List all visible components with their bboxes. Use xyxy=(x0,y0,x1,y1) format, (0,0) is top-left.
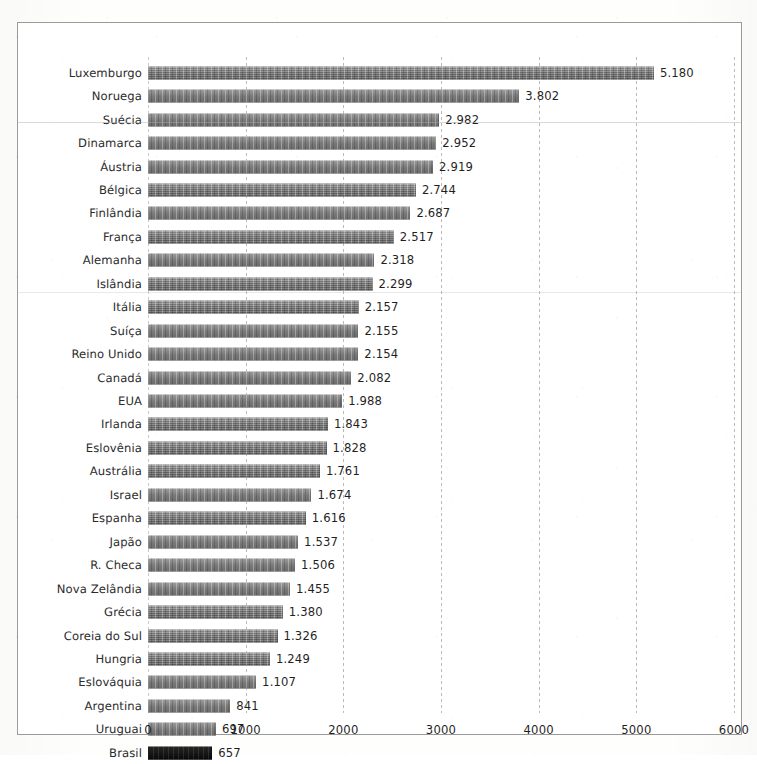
bar-value-label: 1.616 xyxy=(312,511,346,525)
category-label: Argentina xyxy=(85,699,142,713)
bar xyxy=(148,488,311,501)
plot-area: Luxemburgo5.180Noruega3.802Suécia2.982Di… xyxy=(148,57,734,713)
bar xyxy=(148,348,358,361)
bar-row: França2.517 xyxy=(148,225,734,248)
bar-row: Argentina841 xyxy=(148,694,734,717)
bar xyxy=(148,90,519,103)
bar xyxy=(148,160,433,173)
bar-row: Luxemburgo5.180 xyxy=(148,61,734,84)
bar xyxy=(148,699,230,712)
bar-value-label: 1.455 xyxy=(296,582,330,596)
category-label: Japão xyxy=(109,535,142,549)
bar-row: Reino Unido2.154 xyxy=(148,342,734,365)
bar-value-label: 2.082 xyxy=(357,371,391,385)
bar xyxy=(148,676,256,689)
bar-value-label: 2.155 xyxy=(364,324,398,338)
bar-value-label: 3.802 xyxy=(525,89,559,103)
bar xyxy=(148,207,410,220)
bar xyxy=(148,254,374,267)
bar-row: Suíça2.155 xyxy=(148,319,734,342)
gridline-6000 xyxy=(734,57,735,713)
category-label: Luxemburgo xyxy=(69,66,142,80)
bar-row: Suécia2.982 xyxy=(148,108,734,131)
category-label: R. Checa xyxy=(90,558,142,572)
bar-row: Noruega3.802 xyxy=(148,84,734,107)
bar xyxy=(148,371,351,384)
category-label: Dinamarca xyxy=(78,136,142,150)
chart-frame: Luxemburgo5.180Noruega3.802Suécia2.982Di… xyxy=(17,22,742,735)
x-tick-label: 2000 xyxy=(328,723,358,737)
bar-row: R. Checa1.506 xyxy=(148,553,734,576)
category-label: Espanha xyxy=(92,511,142,525)
bar-value-label: 1.380 xyxy=(289,605,323,619)
bar-value-label: 2.157 xyxy=(365,300,399,314)
bar-row: Israel1.674 xyxy=(148,483,734,506)
bar-value-label: 2.919 xyxy=(439,160,473,174)
category-label: Suíça xyxy=(110,324,142,338)
bar-value-label: 2.299 xyxy=(379,277,413,291)
bar-value-label: 2.154 xyxy=(364,347,398,361)
bar xyxy=(148,535,298,548)
bar xyxy=(148,66,654,79)
category-label: Coreia do Sul xyxy=(64,629,142,643)
category-label: Alemanha xyxy=(83,253,142,267)
bar xyxy=(148,183,416,196)
bar-row: Nova Zelândia1.455 xyxy=(148,577,734,600)
bar xyxy=(148,606,283,619)
bar-value-label: 1.506 xyxy=(301,558,335,572)
bar-value-label: 1.326 xyxy=(284,629,318,643)
category-label: Grécia xyxy=(104,605,142,619)
category-label: Suécia xyxy=(103,113,142,127)
x-tick-label: 1000 xyxy=(231,723,261,737)
bar-value-label: 841 xyxy=(236,699,259,713)
bar xyxy=(148,652,270,665)
x-tick-label: 4000 xyxy=(524,723,554,737)
category-label: Eslováquia xyxy=(78,675,142,689)
x-tick-label: 0 xyxy=(144,723,152,737)
bar-row: Canadá2.082 xyxy=(148,366,734,389)
x-axis-tick-labels: 0100020003000400050006000 xyxy=(148,723,734,745)
bar-value-label: 1.828 xyxy=(333,441,367,455)
bar-value-label: 2.517 xyxy=(400,230,434,244)
category-label: Itália xyxy=(113,300,142,314)
category-label: Nova Zelândia xyxy=(57,582,142,596)
bar xyxy=(148,746,212,759)
category-label: França xyxy=(103,230,142,244)
bar-row: Eslováquia1.107 xyxy=(148,671,734,694)
category-label: Eslovênia xyxy=(86,441,142,455)
category-label: Hungria xyxy=(95,652,142,666)
category-label: EUA xyxy=(118,394,142,408)
bar xyxy=(148,418,328,431)
bar xyxy=(148,559,295,572)
bar-row: Dinamarca2.952 xyxy=(148,131,734,154)
category-label: Austrália xyxy=(90,464,142,478)
bar xyxy=(148,629,278,642)
category-label: Bélgica xyxy=(99,183,142,197)
category-label: Áustria xyxy=(100,160,142,174)
bar-row: Coreia do Sul1.326 xyxy=(148,624,734,647)
bar-row: Itália2.157 xyxy=(148,296,734,319)
x-tick-label: 6000 xyxy=(719,723,749,737)
bar-row: Alemanha2.318 xyxy=(148,249,734,272)
bar-row: Hungria1.249 xyxy=(148,647,734,670)
bar-value-label: 2.318 xyxy=(380,253,414,267)
bar-row: EUA1.988 xyxy=(148,389,734,412)
category-label: Uruguai xyxy=(96,722,142,736)
category-label: Islândia xyxy=(96,277,142,291)
bar xyxy=(148,301,359,314)
bar xyxy=(148,137,436,150)
bar-value-label: 2.687 xyxy=(416,206,450,220)
bar xyxy=(148,512,306,525)
bar xyxy=(148,277,373,290)
category-label: Brasil xyxy=(109,746,142,760)
bar xyxy=(148,582,290,595)
bar-value-label: 1.537 xyxy=(304,535,338,549)
bar-row: Finlândia2.687 xyxy=(148,202,734,225)
bar-value-label: 1.843 xyxy=(334,417,368,431)
bar-row: Islândia2.299 xyxy=(148,272,734,295)
bar xyxy=(148,465,320,478)
bar-value-label: 657 xyxy=(218,746,241,760)
x-tick-label: 5000 xyxy=(621,723,651,737)
bar-value-label: 5.180 xyxy=(660,66,694,80)
